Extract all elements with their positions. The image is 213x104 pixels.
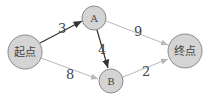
weight-start-A: 3: [58, 21, 66, 36]
node-start-label: 起点: [14, 46, 36, 59]
shortest-path-diagram: 3 8 4 9 2 起点 A B 终点: [0, 0, 213, 104]
weight-A-B: 4: [98, 42, 106, 57]
node-B-label: B: [107, 76, 114, 87]
node-A-label: A: [89, 13, 98, 24]
weight-start-B: 8: [66, 67, 74, 82]
weight-B-end: 2: [142, 64, 150, 79]
node-end-label: 终点: [174, 44, 196, 58]
weight-A-end: 9: [134, 24, 142, 39]
